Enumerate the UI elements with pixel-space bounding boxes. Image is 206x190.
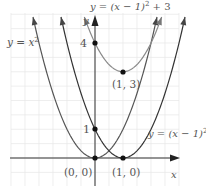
y-axis-label: y [82, 15, 89, 26]
point-0-1 [92, 126, 97, 131]
label-point-1-0: (1, 0) [112, 166, 140, 178]
tick-label-1: 1 [83, 123, 90, 136]
point-0-4 [92, 40, 97, 45]
label-point-1-3: (1, 3) [112, 78, 140, 90]
point-1-3 [120, 69, 125, 74]
label-curve-y-x-minus-1-squared: y = (x − 1)2 [147, 127, 206, 139]
tick-label-4: 4 [80, 37, 87, 50]
label-point-origin: (0, 0) [64, 166, 92, 178]
parabola-graph: 4 1 (1, 3) (0, 0) (1, 0) x y y = x2 y = … [0, 0, 206, 190]
label-curve-y-x-minus-1-squared-plus-3: y = (x − 1)2 + 3 [89, 0, 171, 12]
x-axis-arrow-icon [170, 155, 180, 162]
point-1-0 [120, 155, 125, 160]
point-origin [92, 155, 97, 160]
label-curve-y-x-squared: y = x2 [6, 36, 39, 48]
x-axis-label: x [171, 169, 177, 180]
y-axis-arrow-icon [92, 15, 99, 26]
